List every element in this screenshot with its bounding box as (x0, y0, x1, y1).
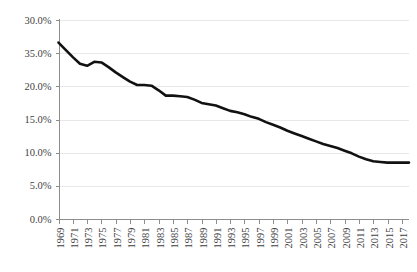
series-line (59, 43, 410, 163)
x-axis-tick-label: 1997 (255, 228, 266, 249)
x-axis-tick-label: 1993 (226, 228, 237, 249)
y-axis-tick-label: 30.0% (24, 15, 51, 26)
chart-canvas: 30.0%35.0%20.0%15.0%10.0%5.0%0.0% 196919… (0, 0, 417, 272)
x-axis-tick-label: 1975 (97, 228, 108, 249)
data-series-group (59, 43, 410, 163)
x-axis-tick-label: 2011 (355, 228, 366, 249)
x-axis-tick-label: 2015 (384, 228, 395, 249)
x-axis-tick-label: 1985 (169, 228, 180, 249)
x-axis (59, 220, 410, 224)
x-axis-tick-label: 2001 (283, 228, 294, 249)
x-axis-tick-label: 1977 (112, 228, 123, 249)
y-axis-tick-label: 35.0% (24, 48, 51, 59)
x-axis-tick-label: 1979 (126, 228, 137, 249)
y-axis-tick-label: 20.0% (24, 81, 51, 92)
y-axis-tick-label: 10.0% (24, 147, 51, 158)
gridlines-group (59, 21, 410, 187)
line-chart: 30.0%35.0%20.0%15.0%10.0%5.0%0.0% 196919… (0, 0, 417, 272)
x-axis-tick-label: 1995 (240, 228, 251, 249)
y-axis (56, 19, 60, 220)
y-axis-tick-label: 5.0% (30, 180, 52, 191)
x-axis-tick-label: 2009 (341, 228, 352, 249)
x-axis-tick-label: 1991 (212, 228, 223, 249)
y-axis-tick-label: 0.0% (30, 214, 52, 225)
x-axis-tick-label: 1973 (83, 228, 94, 249)
y-axis-tick-labels: 30.0%35.0%20.0%15.0%10.0%5.0%0.0% (24, 15, 51, 225)
x-axis-tick-label: 2003 (298, 228, 309, 249)
y-axis-tick-label: 15.0% (24, 114, 51, 125)
x-axis-tick-label: 1983 (155, 228, 166, 249)
x-axis-tick-label: 2005 (312, 228, 323, 249)
x-axis-tick-label: 2013 (369, 228, 380, 249)
x-axis-tick-labels: 1969197119731975197719791981198319851987… (55, 228, 409, 249)
x-axis-tick-label: 1987 (183, 228, 194, 249)
x-axis-tick-label: 1989 (198, 228, 209, 249)
x-axis-tick-label: 1999 (269, 228, 280, 249)
x-axis-tick-label: 2007 (326, 228, 337, 249)
x-axis-tick-label: 1971 (69, 228, 80, 249)
x-axis-tick-label: 1969 (55, 228, 66, 249)
x-axis-tick-label: 1981 (140, 228, 151, 249)
x-axis-tick-label: 2017 (398, 228, 409, 249)
